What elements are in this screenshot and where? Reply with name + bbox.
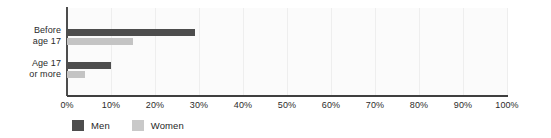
category-label-line: or more [0, 69, 61, 80]
category-label-0: Beforeage 17 [0, 25, 61, 47]
bars-layer [0, 0, 551, 138]
x-tick-label: 10% [102, 99, 120, 111]
legend-item-women[interactable]: Women [132, 120, 184, 131]
category-label-line: Before [0, 25, 61, 36]
category-label-line: Age 17 [0, 58, 61, 69]
chart-legend: MenWomen [72, 120, 184, 131]
legend-label: Women [151, 120, 184, 131]
legend-swatch-women [132, 120, 144, 131]
x-tick-label: 100% [495, 99, 518, 111]
x-tick-label: 30% [190, 99, 208, 111]
x-tick-label: 40% [234, 99, 252, 111]
legend-label: Men [91, 120, 110, 131]
legend-swatch-men [72, 120, 84, 131]
x-tick-label: 80% [410, 99, 428, 111]
x-tick-label: 90% [454, 99, 472, 111]
x-tick-label: 0% [60, 99, 73, 111]
category-label-line: age 17 [0, 36, 61, 47]
x-axis-tick-labels: 0%10%20%30%40%50%60%70%80%90%100% [0, 99, 551, 113]
bar-men-1 [67, 62, 111, 69]
bar-women-0 [67, 38, 133, 45]
bar-women-1 [67, 71, 85, 78]
category-label-1: Age 17or more [0, 58, 61, 80]
x-tick-label: 50% [278, 99, 296, 111]
bar-men-0 [67, 29, 195, 36]
legend-item-men[interactable]: Men [72, 120, 110, 131]
bar-chart: Beforeage 17Age 17or more 0%10%20%30%40%… [0, 0, 551, 138]
x-tick-label: 70% [366, 99, 384, 111]
x-tick-label: 60% [322, 99, 340, 111]
x-tick-label: 20% [146, 99, 164, 111]
